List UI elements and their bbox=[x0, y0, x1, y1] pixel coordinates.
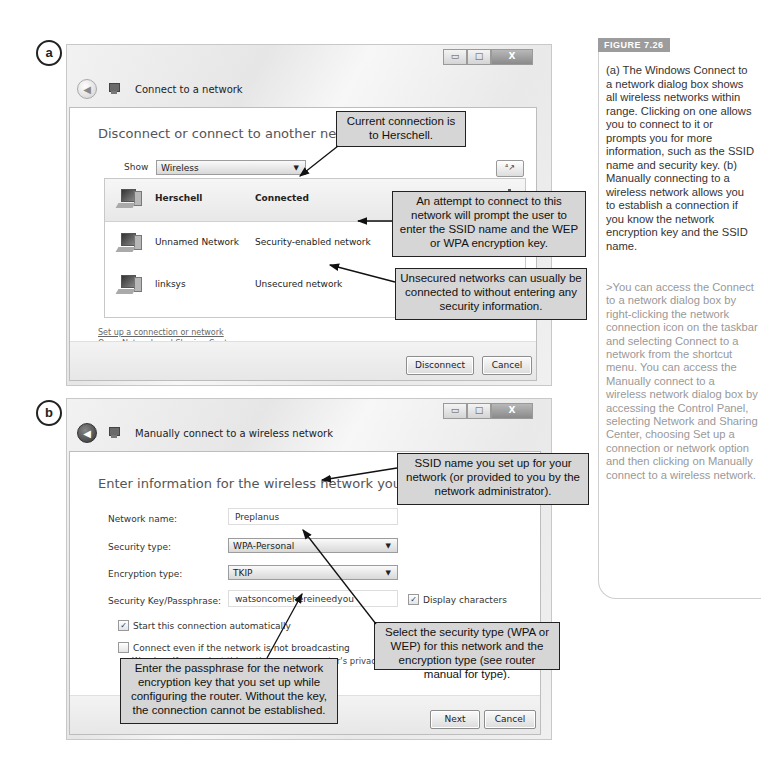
window-title: Connect to a network bbox=[135, 84, 243, 95]
refresh-icon: ⁴↗ bbox=[505, 163, 515, 172]
show-filter-select[interactable]: Wireless ▼ bbox=[156, 160, 306, 175]
page-heading: Disconnect or connect to another network bbox=[98, 126, 373, 141]
checkmark-icon: ✓ bbox=[408, 594, 419, 605]
chevron-down-icon: ▼ bbox=[294, 161, 299, 176]
figure-note: >You can access the Connect to a network… bbox=[606, 281, 758, 482]
callout-passphrase: Enter the passphrase for the network enc… bbox=[120, 658, 338, 724]
security-type-select[interactable]: WPA-Personal ▼ bbox=[228, 538, 398, 553]
display-characters-label: Display characters bbox=[423, 595, 507, 605]
disconnect-button[interactable]: Disconnect bbox=[406, 356, 474, 375]
close-button[interactable]: X bbox=[491, 49, 533, 65]
back-button[interactable]: ◀ bbox=[77, 423, 97, 443]
network-computer-icon bbox=[117, 233, 141, 255]
minimize-button[interactable]: ▭ bbox=[443, 403, 467, 419]
figure-caption: (a) The Windows Connect to a network dia… bbox=[606, 64, 756, 253]
network-status: Security-enabled network bbox=[255, 237, 371, 247]
network-name-input[interactable]: Preplanus bbox=[228, 508, 398, 525]
network-icon bbox=[107, 83, 121, 95]
network-name: linksys bbox=[155, 279, 186, 289]
window-controls: ▭ □ X bbox=[443, 403, 533, 419]
network-computer-icon bbox=[117, 189, 141, 211]
start-automatically-label: Start this connection automatically bbox=[133, 621, 291, 631]
checkmark-icon: ✓ bbox=[118, 620, 129, 631]
network-status: Connected bbox=[255, 193, 309, 203]
display-characters-checkbox[interactable]: ✓ Display characters bbox=[408, 594, 507, 605]
security-key-label: Security Key/Passphrase: bbox=[108, 596, 221, 606]
setup-connection-link[interactable]: Set up a connection or network bbox=[98, 328, 224, 337]
window-controls: ▭ □ X bbox=[443, 49, 533, 65]
show-label: Show bbox=[124, 162, 148, 172]
security-type-value: WPA-Personal bbox=[233, 541, 294, 551]
minimize-button[interactable]: ▭ bbox=[443, 49, 467, 65]
security-type-label: Security type: bbox=[108, 542, 171, 552]
window-title: Manually connect to a wireless network bbox=[135, 428, 333, 439]
security-key-input[interactable]: watsoncomehereineedyou bbox=[228, 590, 398, 607]
cancel-button[interactable]: Cancel bbox=[482, 356, 532, 375]
encryption-type-value: TKIP bbox=[233, 568, 252, 578]
title-bar: ◀ Connect to a network bbox=[77, 79, 243, 99]
callout-current-connection: Current connection is to Herschell. bbox=[336, 111, 466, 147]
callout-unsecured-network: Unsecured networks can usually be connec… bbox=[395, 268, 587, 320]
encryption-type-label: Encryption type: bbox=[108, 569, 182, 579]
network-icon bbox=[107, 427, 121, 439]
network-computer-icon bbox=[117, 275, 141, 297]
close-button[interactable]: X bbox=[491, 403, 533, 419]
back-arrow-icon: ◀ bbox=[83, 428, 91, 439]
panel-b-label: b bbox=[36, 400, 62, 426]
callout-security-type: Select the security type (WPA or WEP) fo… bbox=[374, 622, 560, 670]
network-name: Unnamed Network bbox=[155, 237, 239, 247]
figure-tag: FIGURE 7.26 bbox=[598, 38, 670, 52]
panel-a-label: a bbox=[36, 40, 62, 66]
connect-not-broadcasting-checkbox[interactable]: Connect even if the network is not broad… bbox=[118, 642, 350, 653]
next-button[interactable]: Next bbox=[430, 710, 480, 729]
back-arrow-icon: ◀ bbox=[83, 84, 91, 95]
chevron-down-icon: ▼ bbox=[386, 566, 391, 581]
back-button[interactable]: ◀ bbox=[77, 79, 97, 99]
show-filter-value: Wireless bbox=[161, 163, 199, 173]
encryption-type-select[interactable]: TKIP ▼ bbox=[228, 565, 398, 580]
connect-not-broadcasting-label: Connect even if the network is not broad… bbox=[133, 643, 350, 653]
network-name-label: Network name: bbox=[108, 514, 177, 524]
title-bar: ◀ Manually connect to a wireless network bbox=[77, 423, 333, 443]
refresh-button[interactable]: ⁴↗ bbox=[496, 160, 524, 177]
callout-ssid: SSID name you set up for your network (o… bbox=[397, 453, 589, 505]
callout-secured-network: An attempt to connect to this network wi… bbox=[392, 191, 586, 257]
cancel-button[interactable]: Cancel bbox=[484, 710, 536, 729]
maximize-button[interactable]: □ bbox=[467, 403, 491, 419]
network-status: Unsecured network bbox=[255, 279, 342, 289]
maximize-button[interactable]: □ bbox=[467, 49, 491, 65]
network-name: Herschell bbox=[155, 193, 202, 203]
chevron-down-icon: ▼ bbox=[386, 539, 391, 554]
start-automatically-checkbox[interactable]: ✓ Start this connection automatically bbox=[118, 620, 291, 631]
unchecked-box-icon bbox=[118, 642, 129, 653]
